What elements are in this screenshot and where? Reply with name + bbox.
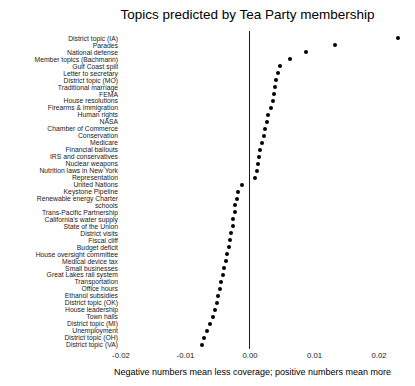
category-label: Trans-Pacific Partnership bbox=[42, 209, 118, 216]
data-point bbox=[253, 176, 257, 180]
category-label: House leadership bbox=[65, 306, 118, 313]
zero-line bbox=[249, 31, 250, 349]
category-label: House resolutions bbox=[64, 97, 118, 104]
data-point bbox=[396, 36, 400, 40]
data-point bbox=[262, 134, 266, 138]
data-point bbox=[218, 287, 222, 291]
data-point bbox=[256, 162, 260, 166]
axis-caption: Negative numbers mean less coverage; pos… bbox=[90, 367, 415, 377]
dot-plot: District topic (IA)ParadesNational defen… bbox=[0, 0, 415, 386]
category-label: Traditional marriage bbox=[58, 84, 118, 91]
category-label: Letter to secretary bbox=[63, 70, 118, 77]
category-label: District topic (IA) bbox=[68, 35, 118, 42]
data-point bbox=[258, 148, 262, 152]
category-label: Unemployment bbox=[72, 327, 118, 334]
data-point bbox=[255, 169, 259, 173]
data-point bbox=[288, 57, 292, 61]
data-point bbox=[235, 197, 239, 201]
x-tick-label: 0.00 bbox=[230, 351, 270, 360]
category-label: State of the Union bbox=[64, 223, 118, 230]
data-point bbox=[211, 315, 215, 319]
category-label: Budget deficit bbox=[77, 244, 118, 251]
category-label: schools bbox=[95, 202, 118, 209]
category-label: NASA bbox=[99, 118, 118, 125]
x-tick-label: -0.01 bbox=[166, 351, 206, 360]
data-point bbox=[225, 252, 229, 256]
category-label: Keystone Pipeline bbox=[64, 188, 118, 195]
data-point bbox=[278, 64, 282, 68]
data-point bbox=[333, 43, 337, 47]
data-point bbox=[227, 245, 231, 249]
data-point bbox=[221, 273, 225, 277]
data-point bbox=[224, 259, 228, 263]
data-point bbox=[231, 224, 235, 228]
data-point bbox=[215, 301, 219, 305]
data-point bbox=[233, 203, 237, 207]
data-point bbox=[219, 280, 223, 284]
data-point bbox=[233, 210, 237, 214]
category-label: Transportation bbox=[74, 278, 118, 285]
data-point bbox=[208, 322, 212, 326]
category-label: National defense bbox=[67, 49, 118, 56]
data-point bbox=[257, 155, 261, 159]
data-point bbox=[271, 99, 275, 103]
data-point bbox=[240, 183, 244, 187]
x-tick-label: -0.02 bbox=[101, 351, 141, 360]
data-point bbox=[228, 238, 232, 242]
x-tick-label: 0.01 bbox=[295, 351, 335, 360]
category-label: Gulf Coast spill bbox=[72, 63, 118, 70]
data-point bbox=[202, 336, 206, 340]
data-point bbox=[269, 106, 273, 110]
category-label: Nutrition laws in New York bbox=[39, 167, 118, 174]
category-label: IRS and conservatives bbox=[50, 153, 118, 160]
category-label: Town halls bbox=[86, 313, 118, 320]
category-label: Firearms & immigration bbox=[48, 104, 118, 111]
category-label: Medicare bbox=[90, 139, 118, 146]
data-point bbox=[200, 343, 204, 347]
data-point bbox=[273, 85, 277, 89]
x-tick-label: 0.02 bbox=[359, 351, 399, 360]
data-point bbox=[222, 266, 226, 270]
data-point bbox=[231, 217, 235, 221]
data-point bbox=[276, 71, 280, 75]
data-point bbox=[304, 50, 308, 54]
category-label: Great Lakes rail system bbox=[47, 271, 118, 278]
category-label: Fiscal cliff bbox=[88, 237, 118, 244]
category-label: Ethanol subsidies bbox=[65, 292, 118, 299]
data-point bbox=[265, 120, 269, 124]
category-label: Conservation bbox=[78, 132, 118, 139]
category-label: District topic (VA) bbox=[66, 341, 118, 348]
data-point bbox=[266, 113, 270, 117]
data-point bbox=[205, 329, 209, 333]
category-label: Representation bbox=[72, 174, 118, 181]
category-label: Medical device tax bbox=[62, 258, 118, 265]
data-point bbox=[236, 190, 240, 194]
data-point bbox=[272, 92, 276, 96]
data-point bbox=[263, 127, 267, 131]
data-point bbox=[260, 141, 264, 145]
data-point bbox=[216, 294, 220, 298]
data-point bbox=[229, 231, 233, 235]
data-point bbox=[274, 78, 278, 82]
dot-plot-chart: Topics predicted by Tea Party membership… bbox=[0, 0, 415, 386]
data-point bbox=[213, 308, 217, 312]
